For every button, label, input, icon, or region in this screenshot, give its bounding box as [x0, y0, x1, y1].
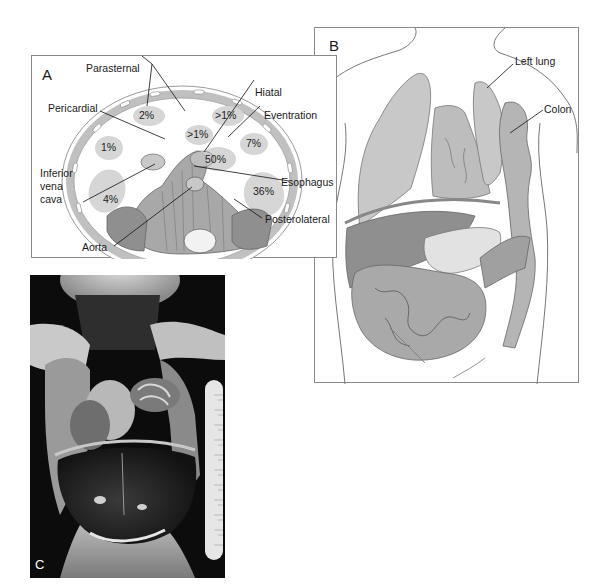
- label-inferior-vena-cava-3: cava: [40, 193, 62, 205]
- percent-pericardial: >1%: [187, 128, 208, 140]
- panel-label-c: C: [35, 557, 44, 572]
- percent-left-posterior: 4%: [103, 193, 118, 205]
- panel-b-torso-illustration: B Left lung Colon: [314, 27, 579, 383]
- label-aorta: Aorta: [82, 241, 107, 253]
- torso-illustration: [315, 28, 580, 384]
- panel-label-b: B: [329, 37, 339, 54]
- panel-c-autopsy-photo: C: [30, 275, 225, 578]
- label-hiatal: Hiatal: [255, 86, 282, 98]
- label-parasternal: Parasternal: [86, 62, 140, 74]
- label-colon: Colon: [544, 103, 571, 115]
- percent-parasternal-right: >1%: [215, 109, 236, 121]
- panel-label-a: A: [42, 66, 52, 83]
- percent-posterolateral: 36%: [253, 185, 274, 197]
- autopsy-photograph: [30, 275, 225, 578]
- label-inferior-vena-cava-1: Inferior: [40, 167, 73, 179]
- panel-a-diaphragm-diagram: A Parasternal Pericardial Hiatal Eventra…: [31, 55, 337, 258]
- diaphragm-illustration: [32, 56, 338, 259]
- label-esophagus: Esophagus: [281, 176, 334, 188]
- percent-hiatal: 50%: [205, 153, 226, 165]
- label-left-lung: Left lung: [515, 55, 555, 67]
- percent-parasternal-left: 2%: [139, 109, 154, 121]
- label-inferior-vena-cava-2: vena: [40, 180, 63, 192]
- label-eventration: Eventration: [264, 109, 317, 121]
- label-pericardial: Pericardial: [48, 102, 98, 114]
- percent-eventration: 7%: [246, 137, 261, 149]
- label-posterolateral: Posterolateral: [265, 213, 330, 225]
- percent-left-anterior: 1%: [101, 141, 116, 153]
